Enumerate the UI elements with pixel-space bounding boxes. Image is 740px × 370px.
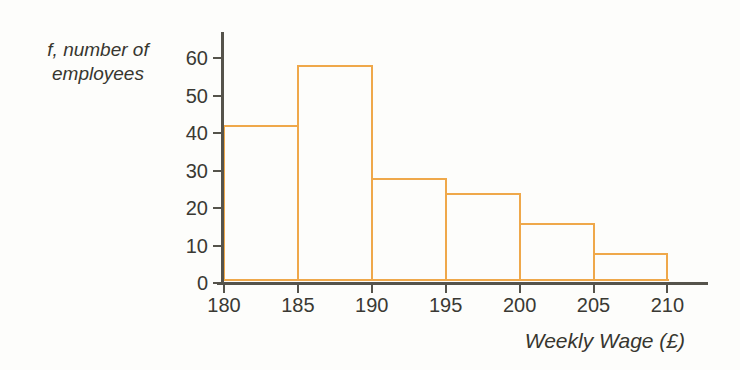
y-tick-label: 10: [164, 236, 208, 256]
bar-top-line: [297, 65, 373, 67]
bar-boundary-line: [666, 253, 668, 281]
x-axis-tick: [593, 285, 595, 293]
histogram-chart: f, number of employees 01020304050601801…: [0, 0, 740, 370]
x-tick-label: 190: [344, 295, 400, 315]
bar-top-line: [223, 125, 299, 127]
x-axis-tick: [223, 285, 225, 293]
y-axis-tick: [213, 95, 221, 97]
x-axis-tick: [297, 285, 299, 293]
bar-top-line: [519, 223, 595, 225]
y-tick-label: 60: [164, 48, 208, 68]
bar-boundary-line: [297, 65, 299, 281]
y-axis-tick: [213, 207, 221, 209]
y-axis-tick: [213, 57, 221, 59]
bar-top-line: [371, 178, 447, 180]
x-axis-title: Weekly Wage (£): [480, 329, 685, 353]
x-tick-label: 205: [566, 295, 622, 315]
y-axis-tick: [213, 170, 221, 172]
y-tick-label: 20: [164, 198, 208, 218]
y-tick-label: 30: [164, 161, 208, 181]
y-axis-tick: [213, 282, 221, 284]
x-tick-label: 180: [196, 295, 252, 315]
histogram-baseline: [224, 279, 669, 281]
y-axis-title: f, number of employees: [18, 38, 178, 86]
x-tick-label: 200: [492, 295, 548, 315]
y-axis-line: [221, 32, 224, 285]
x-axis-line: [217, 282, 708, 285]
bar-boundary-line: [519, 193, 521, 281]
bar-top-line: [445, 193, 521, 195]
y-axis-title-line1: f, number of: [47, 39, 148, 60]
y-tick-label: 50: [164, 86, 208, 106]
x-axis-tick: [519, 285, 521, 293]
y-axis-tick: [213, 245, 221, 247]
x-tick-label: 185: [270, 295, 326, 315]
x-axis-tick: [445, 285, 447, 293]
x-axis-tick: [371, 285, 373, 293]
y-axis-title-line2: employees: [52, 63, 144, 84]
x-tick-label: 195: [418, 295, 474, 315]
x-tick-label: 210: [639, 295, 695, 315]
bar-boundary-line: [371, 65, 373, 281]
y-tick-label: 0: [164, 273, 208, 293]
y-axis-tick: [213, 132, 221, 134]
x-axis-tick: [666, 285, 668, 293]
bar-top-line: [593, 253, 669, 255]
y-tick-label: 40: [164, 123, 208, 143]
